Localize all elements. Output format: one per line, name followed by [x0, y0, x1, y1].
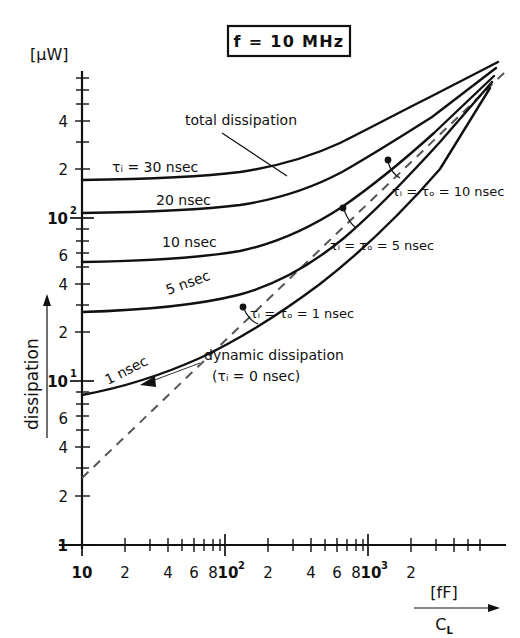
y-tick-100-exponent: 2 — [70, 205, 77, 216]
y-tick-4: 4 — [58, 439, 68, 457]
y-tick-6: 6 — [58, 410, 68, 428]
x-tick-800: 8 — [351, 564, 361, 582]
callout-dynamic-dissipation-sub: (τᵢ = 0 nsec) — [212, 368, 300, 384]
curve-label-30nsec: τᵢ = 30 nsec — [112, 159, 198, 175]
x-tick-400: 4 — [306, 564, 316, 582]
x-tick-80: 8 — [208, 564, 218, 582]
y-tick-200: 2 — [58, 161, 68, 179]
curve-label-20nsec: 20 nsec — [156, 192, 211, 208]
chart-svg: 1 2 4 6 10 1 2 4 6 10 2 2 4 — [0, 0, 520, 638]
x-tick-1000-mantissa: 10 — [361, 564, 382, 582]
x-tick-100-mantissa: 10 — [218, 564, 239, 582]
dissipation-chart-figure: 1 2 4 6 10 1 2 4 6 10 2 2 4 — [0, 0, 520, 638]
y-axis-unit-label: [µW] — [30, 45, 68, 64]
x-tick-60: 6 — [189, 564, 199, 582]
y-tick-40: 4 — [58, 276, 68, 294]
point-marker-1nsec — [240, 304, 247, 311]
x-tick-decade-10e1: 10 — [72, 564, 93, 582]
x-tick-20: 2 — [120, 564, 130, 582]
x-tick-10-mantissa: 10 — [72, 564, 93, 582]
point-label-1nsec: τᵢ = τₒ = 1 nsec — [250, 306, 354, 321]
y-tick-10-exponent: 1 — [70, 368, 77, 379]
callout-total-dissipation-label: total dissipation — [185, 112, 297, 128]
y-tick-20: 2 — [58, 324, 68, 342]
y-tick-2: 2 — [58, 488, 68, 506]
y-tick-400: 4 — [58, 113, 68, 131]
y-tick-10-mantissa: 10 — [47, 373, 68, 391]
x-tick-1000-exponent: 3 — [381, 560, 388, 571]
point-marker-5nsec — [340, 205, 347, 212]
x-tick-200: 2 — [263, 564, 273, 582]
x-axis-unit-label: [fF] — [430, 583, 457, 602]
x-tick-40: 4 — [163, 564, 173, 582]
point-label-5nsec: τᵢ = τₒ = 5 nsec — [330, 238, 434, 253]
y-tick-100-mantissa: 10 — [47, 210, 68, 228]
y-axis-name: dissipation — [22, 338, 42, 430]
y-tick-60: 6 — [58, 247, 68, 265]
curve-label-10nsec: 10 nsec — [162, 234, 217, 250]
x-tick-100-exponent: 2 — [238, 560, 245, 571]
x-tick-2000: 2 — [406, 564, 416, 582]
title-text: f = 10 MHz — [234, 32, 345, 51]
y-tick-1: 1 — [58, 537, 68, 555]
x-tick-600: 6 — [332, 564, 342, 582]
point-label-10nsec: τᵢ = τₒ = 10 nsec — [392, 184, 505, 199]
callout-dynamic-dissipation-label: dynamic dissipation — [204, 347, 344, 363]
